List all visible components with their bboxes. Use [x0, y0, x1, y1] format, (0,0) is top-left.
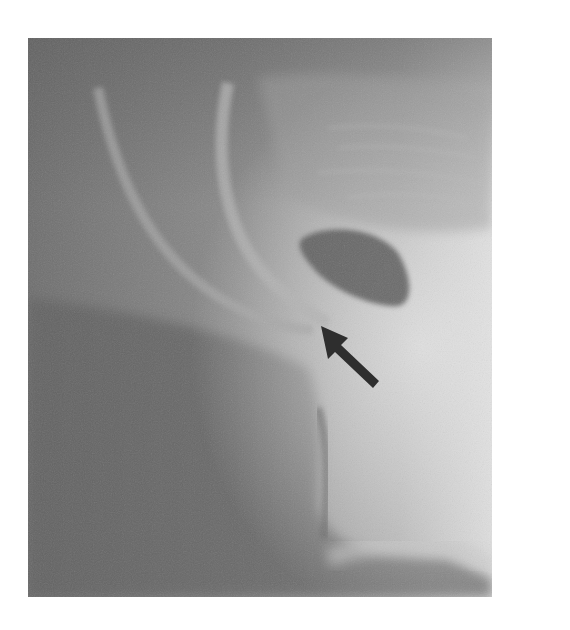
radiograph-image — [28, 38, 492, 597]
radiograph-svg — [28, 38, 492, 597]
film-grain — [28, 38, 492, 597]
